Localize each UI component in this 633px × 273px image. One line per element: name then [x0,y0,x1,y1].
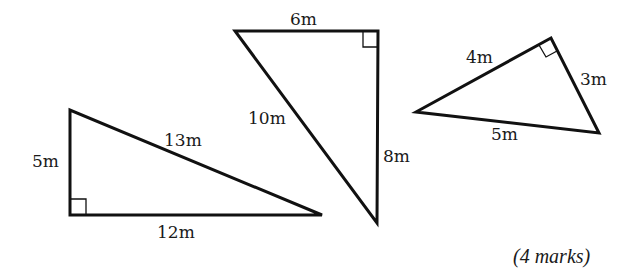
label-a-hypotenuse: 13m [164,130,202,150]
diagram-canvas: 5m 12m 13m 6m 8m 10m 4m 3m 5m (4 marks) [0,0,633,273]
triangle-c-outline [416,38,599,133]
right-angle-marker-b [363,31,378,47]
label-b-vertical: 8m [383,146,410,166]
label-c-upper: 4m [466,47,493,67]
triangle-c: 4m 3m 5m [416,38,607,144]
marks-label: (4 marks) [513,245,591,268]
triangle-a: 5m 12m 13m [32,110,322,242]
label-c-bottom: 5m [491,124,518,144]
label-a-vertical: 5m [32,151,59,171]
label-b-top: 6m [290,9,317,29]
label-a-horizontal: 12m [157,222,195,242]
label-b-hypotenuse: 10m [248,108,286,128]
right-angle-marker-a [70,199,86,215]
label-c-right: 3m [580,69,607,89]
